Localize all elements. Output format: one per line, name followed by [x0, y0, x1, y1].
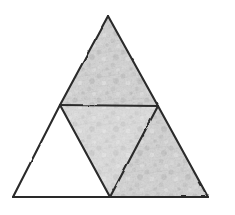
figure-canvas — [0, 0, 235, 215]
triangle-figure — [0, 0, 235, 215]
region-top-shaded — [60, 16, 158, 106]
edge-horizontal-midline — [60, 105, 158, 106]
